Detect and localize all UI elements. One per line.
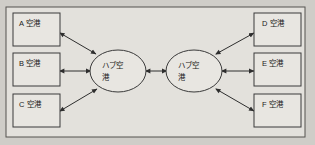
hub-left-label-line1: ハブ空	[102, 60, 123, 70]
network-diagram: A 空港 B 空港 C 空港 D 空港 E 空港 F 空港 ハブ空 港	[0, 0, 315, 145]
node-a-airport[interactable]: A 空港	[13, 13, 60, 46]
hub-right-airport[interactable]: ハブ空 港	[166, 50, 222, 92]
hub-right-label-line2: 港	[178, 72, 186, 82]
hub-left-label-line2: 港	[102, 72, 110, 82]
node-d-label: D 空港	[262, 18, 285, 28]
node-b-airport[interactable]: B 空港	[13, 53, 60, 86]
node-f-label: F 空港	[262, 99, 284, 109]
node-c-airport[interactable]: C 空港	[13, 94, 60, 127]
node-c-label: C 空港	[19, 99, 42, 109]
node-e-label: E 空港	[262, 58, 284, 68]
node-e-airport[interactable]: E 空港	[254, 53, 301, 86]
node-b-label: B 空港	[19, 58, 41, 68]
hub-left-airport[interactable]: ハブ空 港	[90, 50, 146, 92]
diagram-canvas: A 空港 B 空港 C 空港 D 空港 E 空港 F 空港 ハブ空 港	[0, 0, 315, 145]
node-a-label: A 空港	[19, 18, 41, 28]
hub-right-label-line1: ハブ空	[178, 60, 199, 70]
node-d-airport[interactable]: D 空港	[254, 13, 301, 46]
node-f-airport[interactable]: F 空港	[254, 94, 301, 127]
